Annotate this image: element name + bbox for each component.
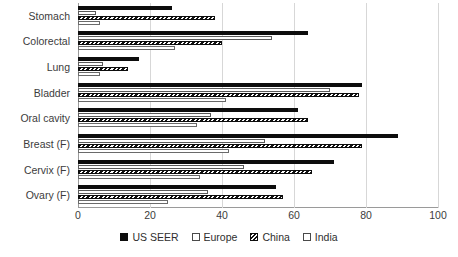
bar-india [78,175,200,179]
plot-area [78,3,438,208]
bar-group [78,182,438,208]
bar-europe [78,190,208,194]
bar-europe [78,88,330,92]
bar-india [78,72,100,76]
y-axis-label: Oral cavity [20,112,70,124]
legend-item-china[interactable]: China [250,231,289,243]
chart-legend: US SEEREuropeChinaIndia [0,231,458,243]
bar-us-seer [78,6,172,10]
bar-us-seer [78,108,298,112]
bar-china [78,16,215,20]
grid-line [438,3,439,208]
bar-china [78,67,128,71]
bar-us-seer [78,185,276,189]
bar-us-seer [78,31,308,35]
legend-label: India [315,231,338,243]
bar-europe [78,139,265,143]
legend-swatch-icon [120,233,128,241]
bar-china [78,118,308,122]
bar-india [78,200,168,204]
bar-group [78,157,438,183]
legend-swatch-icon [250,233,258,241]
x-axis-tick-label: 80 [360,209,372,221]
y-axis-label: Bladder [34,87,70,99]
y-axis-category-labels: StomachColorectalLungBladderOral cavityB… [0,3,74,208]
bar-europe [78,62,103,66]
bar-india [78,46,175,50]
bar-india [78,149,229,153]
bar-group [78,106,438,132]
legend-label: China [262,231,289,243]
bar-us-seer [78,83,362,87]
x-axis-tick-label: 0 [75,209,81,221]
legend-label: US SEER [132,231,178,243]
legend-swatch-icon [303,233,311,241]
y-axis-label: Colorectal [23,35,70,47]
legend-label: Europe [204,231,238,243]
bar-europe [78,165,244,169]
legend-item-europe[interactable]: Europe [192,231,238,243]
legend-swatch-icon [192,233,200,241]
bar-china [78,41,222,45]
legend-item-us-seer[interactable]: US SEER [120,231,178,243]
bar-china [78,93,359,97]
bar-us-seer [78,57,139,61]
x-axis-tick-label: 20 [144,209,156,221]
bar-china [78,170,312,174]
bar-china [78,195,283,199]
bar-europe [78,113,211,117]
x-axis-tick-labels: 020406080100 [78,209,438,225]
y-axis-label: Breast (F) [23,138,70,150]
bar-india [78,123,197,127]
bar-group [78,131,438,157]
bar-us-seer [78,160,334,164]
bar-india [78,21,100,25]
y-axis-label: Stomach [29,10,70,22]
bar-group [78,29,438,55]
bar-us-seer [78,134,398,138]
x-axis-tick-label: 40 [216,209,228,221]
bar-europe [78,11,96,15]
y-axis-label: Lung [47,61,70,73]
y-axis-label: Ovary (F) [26,189,70,201]
x-axis-tick-label: 60 [288,209,300,221]
bar-china [78,144,362,148]
y-axis-label: Cervix (F) [24,164,70,176]
legend-item-india[interactable]: India [303,231,338,243]
bar-group [78,80,438,106]
bar-group [78,54,438,80]
x-axis-tick-label: 100 [429,209,447,221]
bar-europe [78,36,272,40]
bar-chart: StomachColorectalLungBladderOral cavityB… [0,0,458,257]
bar-india [78,98,226,102]
bar-group [78,3,438,29]
